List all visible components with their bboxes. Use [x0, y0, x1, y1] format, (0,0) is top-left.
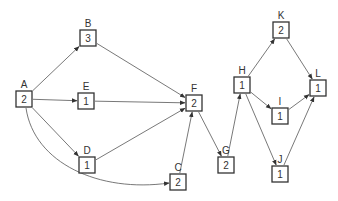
- edge-a-d: [33, 108, 79, 156]
- node-h: 1H: [234, 65, 250, 93]
- node-i: 1I: [272, 96, 288, 124]
- node-label: H: [238, 65, 245, 76]
- node-duration: 1: [277, 169, 283, 180]
- node-duration: 2: [21, 94, 27, 105]
- node-j: 1J: [272, 154, 288, 182]
- node-duration: 1: [84, 160, 90, 171]
- edge-h-j: [246, 94, 276, 165]
- node-label: A: [21, 79, 28, 90]
- node-c: 2C: [170, 162, 186, 190]
- edge-c-f: [180, 112, 192, 173]
- node-label: E: [83, 81, 90, 92]
- edge-h-i: [251, 92, 271, 108]
- node-g: 2G: [218, 145, 234, 173]
- node-label: D: [83, 145, 90, 156]
- node-label: F: [191, 83, 197, 94]
- node-duration: 2: [278, 25, 284, 36]
- node-label: G: [222, 145, 230, 156]
- edge-j-l: [284, 97, 314, 165]
- edge-a-c: [26, 108, 169, 185]
- edge-k-l: [287, 39, 313, 79]
- node-f: 2F: [186, 83, 202, 111]
- edge-h-k: [248, 39, 274, 76]
- node-a: 2A: [16, 79, 32, 107]
- edge-f-g: [199, 112, 222, 156]
- edge-i-l: [289, 95, 309, 110]
- node-duration: 1: [83, 96, 89, 107]
- node-duration: 1: [277, 111, 283, 122]
- node-k: 2K: [273, 10, 289, 38]
- edge-d-f: [96, 108, 185, 160]
- node-duration: 2: [175, 177, 181, 188]
- node-duration: 2: [223, 160, 229, 171]
- edge-b-f: [97, 44, 185, 98]
- node-label: C: [174, 162, 181, 173]
- node-e: 1E: [78, 81, 94, 109]
- node-label: B: [85, 18, 92, 29]
- node-duration: 1: [239, 80, 245, 91]
- node-duration: 3: [85, 33, 91, 44]
- edge-a-e: [33, 99, 77, 100]
- node-duration: 1: [315, 83, 321, 94]
- node-label: K: [278, 10, 285, 21]
- node-label: I: [279, 96, 282, 107]
- node-label: J: [278, 154, 283, 165]
- network-diagram: 2A3B1E1D2C2F2G1H2K1I1J1L: [0, 0, 338, 201]
- node-l: 1L: [310, 68, 326, 96]
- edges-layer: [26, 39, 314, 185]
- node-label: L: [315, 68, 321, 79]
- node-d: 1D: [79, 145, 95, 173]
- node-duration: 2: [191, 98, 197, 109]
- node-b: 3B: [80, 18, 96, 46]
- edge-e-f: [95, 101, 185, 103]
- edge-a-b: [33, 47, 79, 91]
